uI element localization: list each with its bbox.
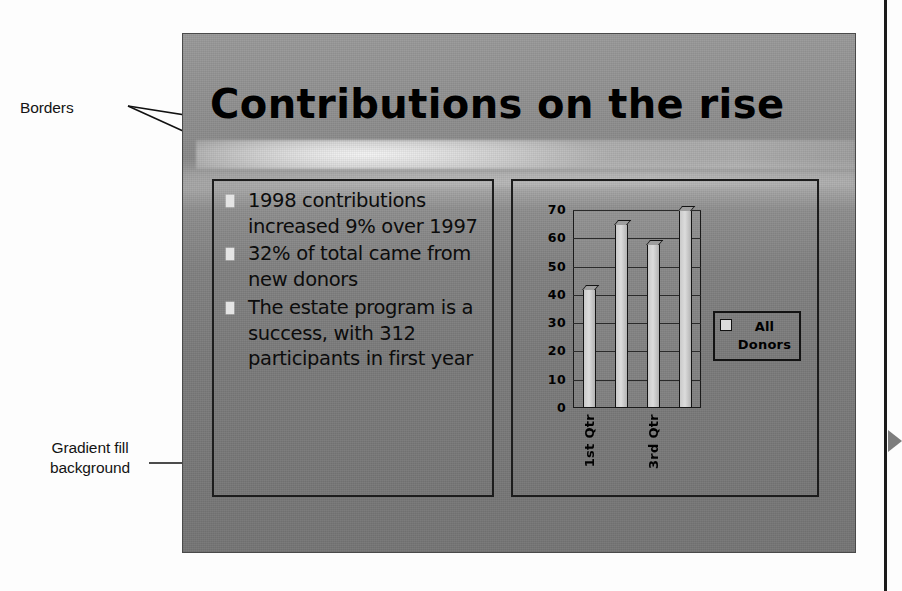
legend-label-line-1: All [755, 319, 775, 334]
chart-legend[interactable]: All Donors [713, 311, 801, 361]
chart-bar [583, 289, 596, 408]
figure-canvas: Borders Gradient fill background Contrib… [0, 0, 902, 591]
chart-bar [679, 210, 692, 408]
square-bullet-icon [226, 195, 234, 207]
chart-bar [647, 244, 660, 408]
legend-entry: All Donors [720, 318, 794, 353]
slide-body-textbox[interactable]: 1998 contributions increased 9% over 199… [212, 179, 494, 497]
right-triangle-marker-icon [888, 430, 902, 452]
chart-y-tick-label: 20 [548, 344, 566, 359]
bullet-item[interactable]: 32% of total came from new donors [222, 241, 488, 292]
chart-y-tick-label: 30 [548, 315, 566, 330]
bullet-item[interactable]: The estate program is a success, with 31… [222, 295, 488, 372]
legend-label-line-2: Donors [738, 337, 791, 352]
chart-y-tick-label: 70 [548, 202, 566, 217]
bar-chart[interactable]: 706050403020100 1st Qtr3rd Qtr [573, 210, 701, 408]
slide-title[interactable]: Contributions on the rise [210, 84, 784, 124]
bullet-text: 1998 contributions increased 9% over 199… [248, 189, 478, 238]
bullet-list: 1998 contributions increased 9% over 199… [222, 188, 488, 374]
bullet-item[interactable]: 1998 contributions increased 9% over 199… [222, 188, 488, 239]
legend-swatch-icon [720, 319, 732, 331]
square-bullet-icon [226, 302, 234, 314]
annotation-label-borders: Borders [20, 98, 74, 118]
presentation-slide[interactable]: Contributions on the rise 1998 contribut… [183, 34, 855, 552]
legend-entry-label: All Donors [735, 318, 794, 353]
bullet-text: The estate program is a success, with 31… [248, 296, 473, 370]
chart-bar [615, 224, 628, 408]
square-bullet-icon [226, 248, 234, 260]
bullet-text: 32% of total came from new donors [248, 242, 471, 291]
annotation-line-1: Gradient fill [51, 439, 128, 456]
chart-y-tick-label: 60 [548, 231, 566, 246]
chart-y-tick-label: 0 [557, 400, 566, 415]
chart-y-tick-label: 50 [548, 259, 566, 274]
chart-x-tick-label: 3rd Qtr [646, 414, 661, 469]
slide-chart-textbox[interactable]: 706050403020100 1st Qtr3rd Qtr All Donor… [511, 179, 819, 497]
chart-y-tick-label: 40 [548, 287, 566, 302]
slide-gradient-highlight [196, 140, 855, 168]
chart-y-tick-label: 10 [548, 372, 566, 387]
annotation-line-2: background [50, 459, 130, 476]
page-vertical-rule [884, 0, 887, 591]
chart-x-tick-label: 1st Qtr [582, 414, 597, 467]
annotation-label-gradient-fill-background: Gradient fill background [14, 438, 166, 478]
